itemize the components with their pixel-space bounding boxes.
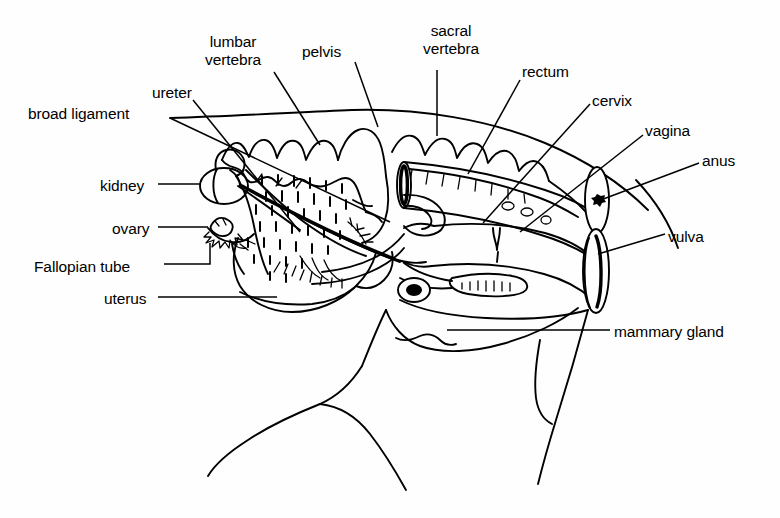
label-cervix: cervix bbox=[592, 92, 632, 110]
label-lumbar-vertebra: lumbarvertebra bbox=[205, 33, 261, 69]
figure-canvas: broad ligamentureterlumbarvertebrapelvis… bbox=[0, 0, 780, 518]
leader-ureter bbox=[193, 100, 300, 232]
hind-leg bbox=[208, 310, 588, 490]
leader-rectum bbox=[468, 80, 520, 174]
label-ureter: ureter bbox=[152, 84, 192, 102]
label-anus-line-0: anus bbox=[702, 152, 735, 170]
label-cervix-line-0: cervix bbox=[592, 92, 632, 110]
label-vagina-line-0: vagina bbox=[645, 122, 690, 140]
label-kidney-line-0: kidney bbox=[100, 177, 144, 195]
vagina bbox=[432, 224, 592, 299]
leader-fallopian bbox=[164, 243, 210, 264]
broad-ligament bbox=[236, 170, 373, 288]
leader-vulva bbox=[598, 234, 665, 254]
bladder bbox=[398, 278, 430, 302]
leader-lumbar bbox=[274, 72, 320, 145]
anus bbox=[585, 167, 609, 233]
vulva bbox=[583, 229, 609, 313]
label-sacral-vertebra-line-0: sacral bbox=[423, 22, 479, 40]
label-anus: anus bbox=[702, 152, 735, 170]
label-rectum-line-0: rectum bbox=[522, 63, 569, 81]
label-broad-ligament: broad ligament bbox=[28, 105, 129, 123]
label-mammary-gland-line-0: mammary gland bbox=[614, 323, 724, 341]
label-mammary-gland: mammary gland bbox=[614, 323, 724, 341]
label-vulva: vulva bbox=[668, 228, 704, 246]
label-fallopian-tube: Fallopian tube bbox=[34, 258, 130, 276]
label-ovary-line-0: ovary bbox=[112, 220, 149, 238]
label-lumbar-vertebra-line-0: lumbar bbox=[205, 33, 261, 51]
label-sacral-vertebra-line-1: vertebra bbox=[423, 40, 479, 58]
label-kidney: kidney bbox=[100, 177, 144, 195]
label-broad-ligament-line-0: broad ligament bbox=[28, 105, 129, 123]
label-lumbar-vertebra-line-1: vertebra bbox=[205, 51, 261, 69]
label-uterus-line-0: uterus bbox=[104, 290, 146, 308]
label-sacral-vertebra: sacralvertebra bbox=[423, 22, 479, 58]
leader-vagina bbox=[520, 135, 643, 232]
label-pelvis-line-0: pelvis bbox=[302, 43, 341, 61]
label-vulva-line-0: vulva bbox=[668, 228, 704, 246]
label-uterus: uterus bbox=[104, 290, 146, 308]
label-vagina: vagina bbox=[645, 122, 690, 140]
leader-pelvis bbox=[355, 62, 378, 127]
mammary-gland bbox=[362, 300, 588, 366]
tail bbox=[549, 181, 586, 212]
label-pelvis: pelvis bbox=[302, 43, 341, 61]
label-rectum: rectum bbox=[522, 63, 569, 81]
leader-cervix bbox=[483, 104, 590, 223]
label-fallopian-tube-line-0: Fallopian tube bbox=[34, 258, 130, 276]
label-ureter-line-0: ureter bbox=[152, 84, 192, 102]
label-ovary: ovary bbox=[112, 220, 149, 238]
